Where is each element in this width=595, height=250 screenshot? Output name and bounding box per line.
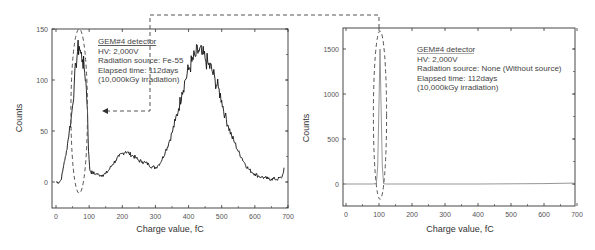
y-tick-label: 0 [44,179,48,186]
x-tick-label: 500 [505,211,517,218]
right-annotation-title: GEM#4 detector [417,45,476,54]
x-tick-label: 400 [183,213,195,220]
y-tick-label: 1500 [323,46,339,53]
right-annotation-dose: (10,000kGy irradiation) [417,83,499,92]
left-annotation-title: GEM#4 detector [98,37,157,46]
left-highlight-ellipse [71,29,88,193]
y-tick-label: 1000 [323,91,339,98]
right-plot-frame [343,28,575,206]
right-annotation-hv: HV: 2,000V [417,55,458,64]
x-tick-label: 400 [472,211,484,218]
y-tick-label: 150 [36,26,48,33]
x-tick-label: 200 [406,211,418,218]
left-x-axis-label: Charge value, fC [136,224,204,234]
x-tick-label: 0 [54,213,58,220]
x-tick-label: 700 [571,211,583,218]
right-x-axis-label: Charge value, fC [426,224,494,234]
left-y-axis-label: Counts [14,103,24,132]
x-tick-label: 0 [344,211,348,218]
arrow-left-icon [102,108,108,114]
y-tick-label: 0 [335,181,339,188]
left-annotation-hv: HV: 2,000V [98,47,139,56]
left-annotation: GEM#4 detector HV: 2,000V Radiation sour… [98,37,184,84]
left-annotation-source: Radiation source: Fe-55 [98,56,184,65]
y-tick-label: 500 [327,136,339,143]
figure: 0100200300400500600700 050100150 Charge … [0,0,595,250]
right-annotation-source: Radiation source: None (Without source) [417,64,562,73]
right-chart: 0100200300400500600700 050010001500 Char… [301,28,583,234]
right-y-axis-label: Counts [301,113,311,142]
x-tick-label: 100 [373,211,385,218]
right-annotation: GEM#4 detector HV: 2,000V Radiation sour… [417,45,562,92]
x-tick-label: 500 [216,213,228,220]
left-annotation-dose: (10,000kGy irradiation) [98,75,180,84]
left-chart: 0100200300400500600700 050100150 Charge … [14,26,294,235]
left-y-ticks: 050100150 [36,26,288,208]
y-tick-label: 100 [36,77,48,84]
left-annotation-elapsed: Elapsed time: 112days [98,66,178,75]
x-tick-label: 200 [116,213,128,220]
x-tick-label: 100 [83,213,95,220]
x-tick-label: 300 [150,213,162,220]
x-tick-label: 600 [249,213,261,220]
x-tick-label: 300 [439,211,451,218]
y-tick-label: 50 [40,128,48,135]
right-annotation-elapsed: Elapsed time: 112days [417,74,497,83]
x-tick-label: 700 [282,213,294,220]
x-tick-label: 600 [538,211,550,218]
